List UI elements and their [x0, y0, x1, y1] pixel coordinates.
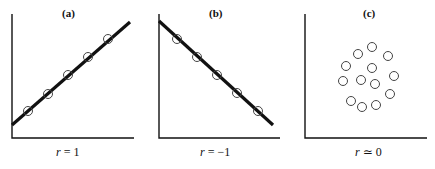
panel-a-caption: r = 1 [56, 145, 79, 160]
panel-b-caption: r = −1 [200, 145, 230, 160]
caption-value: −1 [217, 145, 230, 159]
panel-b-plot [159, 14, 280, 138]
caption-value: 0 [376, 145, 382, 159]
caption-relation: = [205, 145, 218, 159]
caption-relation: = [61, 145, 74, 159]
caption-value: 1 [73, 145, 79, 159]
panel-a-plot [12, 14, 134, 138]
panel-c-caption: r ≃ 0 [355, 145, 382, 160]
panel-a-title: (a) [62, 7, 75, 19]
caption-relation: ≃ [360, 145, 376, 159]
panel-c-title: (c) [363, 7, 375, 19]
panel-b-title: (b) [209, 7, 222, 19]
correlation-figure [0, 0, 435, 169]
panel-c-points [339, 43, 399, 112]
panel-b-fit-line [159, 21, 273, 125]
panel-c-plot [305, 14, 427, 138]
panel-c-axes [305, 14, 427, 138]
